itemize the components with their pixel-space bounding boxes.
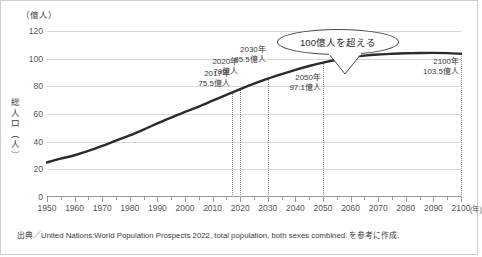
annotation-value: 75.5億人 xyxy=(198,79,230,89)
y-tick-label: 0 xyxy=(38,192,43,202)
x-tick-label: 1950 xyxy=(38,203,57,213)
x-tick-label: 2080 xyxy=(396,203,415,213)
gridline xyxy=(47,86,461,87)
y-axis-title-char-5: ︶ xyxy=(9,150,21,161)
chart-figure: （億人） 総 人 口 ︵ 人 ︶ 020406080100120 1950196… xyxy=(0,0,478,255)
x-tick-minor xyxy=(61,197,62,200)
x-tick-minor xyxy=(171,197,172,200)
x-tick-major xyxy=(157,197,158,202)
annotation-value: 103.5億人 xyxy=(423,67,459,77)
callout-tail xyxy=(328,53,362,75)
x-tick-major xyxy=(406,197,407,202)
x-tick-minor xyxy=(226,197,227,200)
x-tick-major xyxy=(102,197,103,202)
dropline-2100 xyxy=(461,54,462,197)
x-tick-minor xyxy=(88,197,89,200)
x-tick-major xyxy=(433,197,434,202)
x-tick-minor xyxy=(282,197,283,200)
y-tick-label: 120 xyxy=(29,26,43,36)
x-tick-minor xyxy=(337,197,338,200)
y-axis-title-char-4: 人 xyxy=(9,139,21,150)
x-tick-label: 2000 xyxy=(176,203,195,213)
source-citation: 出典／United Nations:World Population Prosp… xyxy=(17,229,400,240)
x-tick-minor xyxy=(420,197,421,200)
x-tick-minor xyxy=(254,197,255,200)
x-tick-label: 1990 xyxy=(148,203,167,213)
x-tick-label: 2090 xyxy=(424,203,443,213)
x-tick-minor xyxy=(392,197,393,200)
x-tick-label: 1980 xyxy=(120,203,139,213)
x-tick-label: 2060 xyxy=(341,203,360,213)
annotation-value: 97.1億人 xyxy=(289,83,321,93)
x-tick-minor xyxy=(309,197,310,200)
x-tick-label: 1960 xyxy=(65,203,84,213)
y-axis-title-char-2: 口 xyxy=(9,118,21,129)
x-tick-label: 2010 xyxy=(203,203,222,213)
y-axis-unit-label: （億人） xyxy=(21,8,57,20)
x-tick-major xyxy=(378,197,379,202)
x-tick-major xyxy=(213,197,214,202)
x-tick-label: 2050 xyxy=(314,203,333,213)
annotation-2030: 2030年85.5億人 xyxy=(234,45,266,65)
annotation-2100: 2100年103.5億人 xyxy=(423,57,459,77)
x-tick-label: 2020 xyxy=(231,203,250,213)
y-tick-label: 40 xyxy=(34,137,43,147)
annotation-year: 2050年 xyxy=(289,73,321,83)
x-tick-major xyxy=(268,197,269,202)
x-tick-minor xyxy=(116,197,117,200)
annotation-value: 85.5億人 xyxy=(234,55,266,65)
x-tick-major xyxy=(185,197,186,202)
x-tick-label: 2040 xyxy=(286,203,305,213)
x-tick-minor xyxy=(144,197,145,200)
annotation-value: 78億人 xyxy=(212,67,238,77)
x-tick-minor xyxy=(199,197,200,200)
plot-area: 020406080100120 195019601970198019902000… xyxy=(47,31,461,197)
x-tick-major xyxy=(295,197,296,202)
population-curve xyxy=(47,53,461,163)
dropline-2050 xyxy=(323,63,324,197)
dropline-2030 xyxy=(268,79,269,197)
x-tick-label: 2100 xyxy=(452,203,471,213)
x-axis-unit-label: (年) xyxy=(470,203,482,214)
x-tick-label: 1970 xyxy=(93,203,112,213)
annotation-2050: 2050年97.1億人 xyxy=(289,73,321,93)
dropline-2020 xyxy=(240,89,241,197)
y-tick-label: 100 xyxy=(29,54,43,64)
gridline xyxy=(47,114,461,115)
x-tick-major xyxy=(47,197,48,202)
annotation-year: 2100年 xyxy=(423,57,459,67)
x-tick-label: 2070 xyxy=(369,203,388,213)
gridline xyxy=(47,169,461,170)
x-tick-minor xyxy=(447,197,448,200)
y-axis-title-char-0: 総 xyxy=(9,97,21,108)
x-tick-major xyxy=(75,197,76,202)
y-tick-label: 80 xyxy=(34,81,43,91)
y-tick-label: 60 xyxy=(34,109,43,119)
x-tick-major xyxy=(130,197,131,202)
dropline-2017 xyxy=(232,93,233,197)
y-tick-label: 20 xyxy=(34,164,43,174)
x-tick-minor xyxy=(364,197,365,200)
y-axis-title: 総 人 口 ︵ 人 ︶ xyxy=(9,97,21,160)
y-axis-title-char-3: ︵ xyxy=(9,129,21,140)
x-tick-major xyxy=(240,197,241,202)
annotation-year: 2030年 xyxy=(234,45,266,55)
x-tick-major xyxy=(461,197,462,202)
callout-text: 100億人を超える xyxy=(277,29,399,55)
x-tick-major xyxy=(323,197,324,202)
callout-bubble: 100億人を超える xyxy=(277,29,399,55)
gridline xyxy=(47,142,461,143)
y-axis-title-char-1: 人 xyxy=(9,108,21,119)
x-tick-major xyxy=(351,197,352,202)
x-tick-label: 2030 xyxy=(258,203,277,213)
